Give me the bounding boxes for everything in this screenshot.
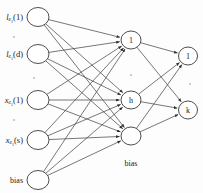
input-label-in-x-s: xe1(s)	[5, 135, 23, 146]
hidden-bias-caption: bias	[125, 159, 138, 168]
edge-input-to-hidden	[43, 49, 125, 172]
edge-input-to-hidden	[46, 107, 123, 173]
input-label-in-l-1: le1(1)	[6, 12, 23, 23]
edge-input-to-hidden	[44, 25, 124, 128]
edge-input-to-hidden	[46, 61, 123, 129]
node-in-bias[interactable]	[27, 171, 49, 190]
input-label-in-l-d: le1(d)	[6, 49, 23, 60]
node-hid-bias[interactable]	[121, 127, 141, 145]
edge-hidden-to-output	[141, 102, 177, 108]
edges-layer	[43, 20, 181, 176]
edge-input-to-hidden	[49, 42, 120, 53]
node-in-x-s[interactable]	[27, 131, 49, 150]
edge-hidden-to-output	[140, 115, 178, 132]
node-label-out-k: k	[186, 106, 190, 115]
edge-input-to-hidden	[49, 20, 120, 38]
node-ellipsis-upper	[33, 77, 35, 79]
node-label-hid-1: 1	[129, 36, 133, 45]
edge-hidden-to-output	[139, 63, 180, 95]
hidden-ellipsis	[130, 74, 132, 76]
edge-input-to-hidden	[48, 104, 121, 135]
edge-hidden-to-output	[141, 43, 178, 53]
node-in-l-d[interactable]	[27, 45, 49, 64]
node-in-x-1[interactable]	[27, 91, 49, 110]
edge-input-to-hidden	[47, 46, 122, 94]
edge-input-to-hidden	[48, 59, 121, 95]
network-canvas: 1h1kle1(1)le1(d)xe1(1)xe1(s)bias bias	[0, 0, 203, 193]
input-label-in-x-1: xe1(1)	[4, 95, 23, 106]
output-ellipsis	[189, 83, 191, 85]
edge-input-to-hidden	[48, 141, 121, 176]
node-label-hid-h: h	[129, 96, 133, 105]
edge-input-to-hidden	[49, 136, 120, 139]
node-label-out-1: 1	[186, 52, 190, 61]
edge-input-to-hidden	[46, 24, 123, 93]
nodes-layer	[27, 8, 198, 190]
node-in-l-1[interactable]	[27, 8, 49, 27]
neural-network-diagram: 1h1kle1(1)le1(d)xe1(1)xe1(s)bias bias	[0, 0, 203, 193]
input-ellipsis-lower	[13, 119, 15, 121]
input-label-in-bias: bias	[10, 176, 23, 185]
input-ellipsis-upper	[13, 36, 15, 38]
